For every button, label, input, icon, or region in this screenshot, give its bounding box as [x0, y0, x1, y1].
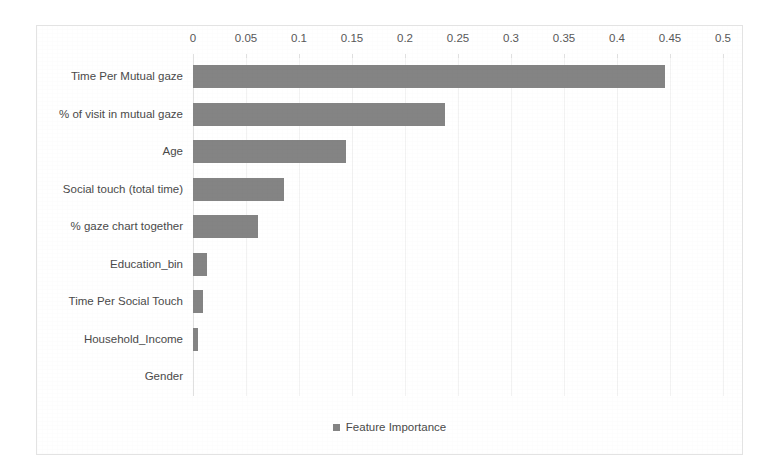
category-label: Gender	[145, 365, 183, 388]
x-tick-label-0.4: 0.4	[609, 32, 625, 44]
x-tick-label-0.15: 0.15	[341, 32, 363, 44]
bar-row: Household_Income	[193, 321, 723, 359]
bar-row: Time Per Social Touch	[193, 283, 723, 321]
bar-row: Education_bin	[193, 246, 723, 284]
legend-swatch-feature-importance	[333, 424, 340, 431]
x-tick-label-0.25: 0.25	[447, 32, 469, 44]
x-tick-label-0: 0	[190, 32, 196, 44]
bar	[193, 253, 207, 276]
gridline-0.5	[723, 58, 724, 396]
category-label: Time Per Mutual gaze	[71, 65, 183, 88]
category-label: Household_Income	[84, 328, 183, 351]
category-label: Education_bin	[110, 253, 183, 276]
category-label: Time Per Social Touch	[69, 290, 183, 313]
bar	[193, 103, 445, 126]
bar-row: Age	[193, 133, 723, 171]
legend-label-feature-importance: Feature Importance	[346, 421, 446, 433]
bar	[193, 328, 198, 351]
bar-row: Social touch (total time)	[193, 171, 723, 209]
category-label: Social touch (total time)	[63, 178, 183, 201]
chart-legend: Feature Importance	[37, 421, 742, 433]
bar-row: Gender	[193, 358, 723, 396]
x-tick-label-0.35: 0.35	[553, 32, 575, 44]
x-tick-label-0.3: 0.3	[503, 32, 519, 44]
x-tick-label-0.45: 0.45	[659, 32, 681, 44]
bar	[193, 215, 258, 238]
x-tick-label-0.5: 0.5	[715, 32, 731, 44]
tickmark-0.5	[723, 54, 724, 58]
bar	[193, 178, 284, 201]
chart-frame: 00.050.10.150.20.250.30.350.40.450.5 Tim…	[36, 25, 743, 455]
plot-area: 00.050.10.150.20.250.30.350.40.450.5 Tim…	[193, 58, 723, 396]
category-label: % of visit in mutual gaze	[59, 103, 183, 126]
x-tick-label-0.05: 0.05	[235, 32, 257, 44]
bar	[193, 140, 346, 163]
category-label: % gaze chart together	[70, 215, 183, 238]
x-tick-label-0.2: 0.2	[397, 32, 413, 44]
x-tick-label-0.1: 0.1	[291, 32, 307, 44]
bar	[193, 65, 665, 88]
bar-row: % of visit in mutual gaze	[193, 96, 723, 134]
bar-row: % gaze chart together	[193, 208, 723, 246]
category-label: Age	[163, 140, 183, 163]
bar	[193, 290, 203, 313]
bar-row: Time Per Mutual gaze	[193, 58, 723, 96]
